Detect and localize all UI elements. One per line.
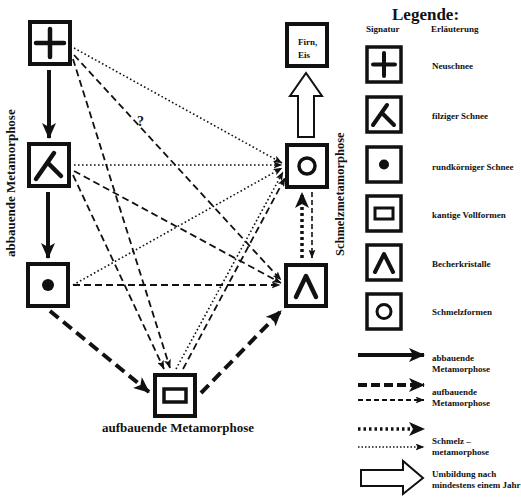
legend-symbol-schmelzformen bbox=[367, 294, 401, 329]
legend-symbol-neuschnee bbox=[367, 47, 401, 82]
firn-label-line2: Eis bbox=[298, 49, 317, 62]
legend-arrow-label-abbauend: abbauende Metamorphose bbox=[432, 353, 490, 375]
firn-eis-label: Firn, Eis bbox=[298, 36, 317, 62]
legend-arrow-label-abbauend-line1: abbauende bbox=[432, 353, 490, 364]
label-abbauende-metamorphose: abbauende Metamorphose bbox=[3, 109, 19, 257]
legend-symbol-kantige-vollformen bbox=[367, 196, 401, 231]
node-neuschnee bbox=[30, 22, 70, 64]
legend-arrow-label-aufbauend-line2: Metamorphose bbox=[432, 398, 490, 409]
legend-label-filziger-schnee: filziger Schnee bbox=[432, 111, 488, 122]
edge-schmelzformen-firn bbox=[290, 73, 322, 137]
edge-neuschnee-becher bbox=[74, 55, 281, 280]
edge-neuschnee-schmelzformen bbox=[74, 48, 282, 163]
legend-symbol-becherkristalle bbox=[367, 245, 401, 280]
label-aufbauende-metamorphose: aufbauende Metamorphose bbox=[102, 420, 254, 436]
label-schmelzmetamorphose: Schmelzmetamorphose bbox=[333, 132, 348, 256]
legend-title: Legende: bbox=[392, 5, 459, 25]
question-mark-label: ? bbox=[137, 114, 144, 130]
legend-symbol-rundkoerniger-schnee bbox=[367, 147, 401, 182]
edge-filzig-kantig bbox=[73, 175, 164, 369]
edges bbox=[48, 48, 312, 393]
legend-arrow-label-aufbauend: aufbauende Metamorphose bbox=[432, 387, 490, 409]
edge-rund-kantig bbox=[50, 311, 149, 392]
legend-symbol-filziger-schnee bbox=[367, 97, 401, 132]
edge-kantig-schmelzformen-dashed bbox=[183, 178, 285, 369]
legend-arrow-label-schmelz-line1: Schmelz – bbox=[432, 436, 489, 447]
legend-symbols bbox=[367, 47, 401, 329]
node-schmelzformen bbox=[287, 145, 327, 187]
node-filziger-schnee bbox=[29, 144, 69, 186]
legend-arrow-label-abbauend-line2: Metamorphose bbox=[432, 364, 490, 375]
legend-arrow-label-umbildung-line1: Umbildung nach bbox=[432, 469, 521, 480]
legend-arrow-hollow bbox=[361, 461, 423, 494]
dot-icon bbox=[42, 279, 54, 291]
legend-label-kantige-vollformen: kantige Vollformen bbox=[432, 210, 506, 221]
legend-arrow-label-schmelz-line2: metamorphose bbox=[432, 447, 489, 458]
node-kantige-vollformen bbox=[155, 375, 195, 416]
legend-arrow-label-aufbauend-line1: aufbauende bbox=[432, 387, 490, 398]
legend-arrow-label-umbildung-line2: mindestens einem Jahr bbox=[432, 480, 521, 491]
legend-arrow-label-schmelz: Schmelz – metamorphose bbox=[432, 436, 489, 458]
legend-arrows bbox=[358, 355, 424, 494]
legend-arrow-label-umbildung: Umbildung nach mindestens einem Jahr bbox=[432, 469, 521, 491]
edge-kantig-schmelzformen-dotted bbox=[176, 172, 283, 369]
firn-label-line1: Firn, bbox=[298, 36, 317, 49]
legend-col-erlaeuterung: Erläuterung bbox=[431, 24, 479, 34]
legend-label-rundkoerniger-schnee: rundkörniger Schnee bbox=[432, 162, 514, 173]
legend-col-signatur: Signatur bbox=[366, 24, 400, 34]
legend-label-neuschnee: Neuschnee bbox=[432, 61, 473, 72]
node-rundkoerniger-schnee bbox=[28, 264, 68, 306]
edge-kantig-becher bbox=[201, 311, 281, 393]
legend-label-becherkristalle: Becherkristalle bbox=[432, 259, 490, 270]
node-becherkristalle bbox=[286, 265, 326, 306]
legend-label-schmelzformen: Schmelzformen bbox=[432, 307, 492, 318]
